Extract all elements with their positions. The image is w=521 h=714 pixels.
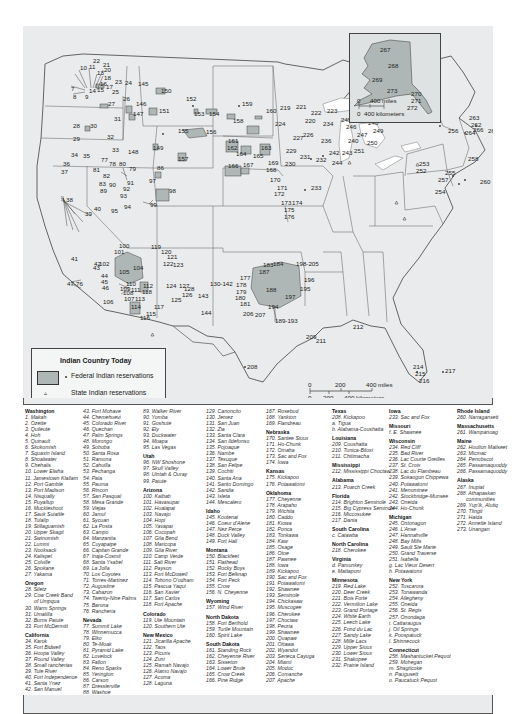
map-label-206: 206 [243, 310, 254, 317]
index-column: Texas208. Kickapooa. Tiguab. Alabama-Cou… [332, 408, 395, 668]
alaska-label-270: 270 [411, 90, 422, 97]
map-label-244: 244 [332, 159, 343, 166]
map-label-117: 117 [154, 303, 164, 310]
map-label-176: 176 [284, 213, 295, 220]
scale-miles-400: 400 miles [366, 381, 392, 388]
reservation-entry: c. Catawba [332, 532, 395, 538]
map-label-234: 234 [323, 120, 334, 127]
map-label-121: 121 [167, 253, 178, 260]
reservation-index: Washington1. Makah2. Ozette3. Quileute4.… [23, 404, 493, 695]
reservation-entry: 27. Yakama [25, 571, 78, 577]
alaska-label-268: 268 [388, 62, 399, 69]
map-label-256: 256 [448, 127, 459, 134]
map-label-194: 194 [268, 303, 279, 310]
map-label-174: 174 [292, 199, 303, 206]
map-label-37: 37 [61, 168, 68, 175]
map-label-215: 215 [415, 370, 426, 377]
map-label-158: 158 [233, 117, 244, 124]
reservation-entry: 232. Prairie Island [332, 662, 395, 668]
map-label-236: 236 [321, 137, 332, 144]
map-scale-bar: 0 200 400 miles 0 200 400 kilometers [308, 381, 398, 398]
reservation-entry: 217. Dania [332, 517, 395, 523]
index-column: 167. Rosebud168. Yankton169. FlandreauNe… [266, 408, 314, 683]
map-label-246: 246 [346, 123, 357, 130]
alaska-scale-zero: 0 [357, 97, 361, 104]
map-label-42: 42 [94, 260, 101, 267]
reservation-entry: 98. Uintah & Ouray [143, 471, 194, 477]
scale-miles-0: 0 [308, 381, 312, 388]
reservation-entry: 88. Washoe [83, 689, 136, 695]
map-label-172: 172 [274, 190, 285, 197]
map-label-208: 208 [247, 363, 258, 370]
map-label-177: 177 [240, 274, 251, 281]
map-label-160: 160 [266, 107, 277, 114]
map-label-214: 214 [413, 363, 424, 370]
map-label-24: 24 [125, 79, 132, 86]
index-column: Iowa233. Sac and FoxMissourif. E. Shawne… [389, 408, 451, 683]
map-label-106: 106 [103, 298, 114, 305]
map-label-230: 230 [285, 160, 296, 167]
map-label-78: 78 [109, 160, 116, 167]
map-label-39: 39 [85, 210, 92, 217]
reservation-entry: 258. Mashantucket Pequot [389, 653, 451, 659]
map-label-233: 233 [311, 184, 322, 191]
reservation-entry: 156. N. Cheyenne [206, 589, 255, 595]
map-label-151: 151 [159, 107, 170, 114]
map-label-46: 46 [102, 284, 109, 291]
map-label-41: 41 [71, 255, 78, 262]
reservation-entry: 207. Apache [266, 677, 314, 683]
alaska-scale-miles: 400 miles [370, 97, 396, 104]
reservation-entry: 174. Iowa [266, 459, 314, 465]
alaska-scale-km: 400 kilometers [364, 110, 404, 117]
map-label-257: 257 [438, 176, 449, 183]
map-label-80: 80 [119, 160, 126, 167]
map-label-147: 147 [133, 110, 144, 117]
scale-miles-200: 200 [335, 381, 346, 388]
index-column: Washington1. Makah2. Ozette3. Quileute4.… [25, 408, 78, 692]
map-label-188: 188 [266, 286, 277, 293]
map-label-165: 165 [253, 152, 264, 159]
map-label-29: 29 [73, 135, 80, 142]
map-label-181: 181 [240, 300, 251, 307]
map-label-159: 159 [242, 100, 253, 107]
map-label-229: 229 [286, 147, 297, 154]
map-label-144: 144 [201, 309, 212, 316]
reservation-entry: 76. Rancheria [83, 608, 136, 614]
reservation-entry: 33. Fort McDermitt [25, 623, 78, 629]
map-label-184: 184 [273, 260, 284, 267]
map-label-258: 258 [468, 155, 479, 162]
map-label-212: 212 [353, 323, 364, 330]
reservation-entry: 99. Paiute [143, 478, 194, 484]
map-label-152: 152 [186, 95, 197, 102]
map-label-125: 125 [171, 296, 182, 303]
reservation-entry: 161. Standing Rock [206, 647, 255, 653]
alaska-label-273: 273 [387, 87, 398, 94]
map-label-178: 178 [236, 281, 247, 288]
map-label-146: 146 [136, 100, 147, 107]
map-label-36: 36 [63, 160, 70, 167]
map-label-114: 114 [131, 303, 141, 310]
map-label-232: 232 [316, 156, 327, 163]
alaska-label-271: 271 [411, 97, 422, 104]
reservation-entry: 144. Mescalero [206, 499, 255, 505]
scale-km-200: 200 [323, 394, 334, 398]
map-label-168: 168 [266, 166, 277, 173]
map-label-83: 83 [99, 180, 106, 187]
map-label-243: 243 [342, 149, 353, 156]
federal-dot-icon [65, 376, 67, 378]
map-label-101: 101 [114, 248, 125, 255]
map-label-157: 157 [178, 155, 189, 162]
map-label-211: 211 [316, 337, 326, 344]
map-label-148: 148 [128, 148, 139, 155]
reservation-entry: 121. Jicarilla Apache [143, 638, 194, 644]
map-label-9: 9 [85, 93, 89, 100]
map-label-195: 195 [300, 285, 311, 292]
map-label-77: 77 [101, 156, 108, 163]
map-label-153: 153 [194, 110, 205, 117]
map-label-31: 31 [114, 115, 121, 122]
reservation-entry: 159. Turtle Mountain [206, 626, 255, 632]
map-label-167: 167 [243, 161, 254, 168]
reservation-entry: 128. Laguna [143, 680, 194, 686]
map-label-224: 224 [275, 120, 286, 127]
map-label-231: 231 [300, 153, 311, 160]
